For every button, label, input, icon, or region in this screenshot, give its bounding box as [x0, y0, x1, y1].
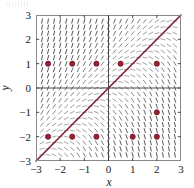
data-point: [154, 110, 159, 115]
y-tick-label: −2: [19, 131, 31, 143]
data-point: [118, 61, 123, 66]
scan-artifact: [6, 2, 28, 7]
x-tick-label: 3: [178, 163, 184, 175]
x-axis-title: x: [105, 176, 112, 188]
data-point: [70, 134, 75, 139]
x-tick-label: 0: [106, 163, 112, 175]
y-tick-label: 1: [26, 58, 32, 70]
data-point: [154, 61, 159, 66]
x-tick-label: −2: [54, 163, 66, 175]
y-tick-label: 3: [26, 9, 32, 21]
data-point: [94, 61, 99, 66]
data-point: [45, 61, 50, 66]
plot-canvas: −3−2−10123−3−2−10123 x y: [0, 0, 194, 188]
x-tick-label: −3: [30, 163, 42, 175]
data-point: [45, 134, 50, 139]
data-point: [94, 134, 99, 139]
y-tick-label: 0: [26, 82, 32, 94]
slope-field-figure: −3−2−10123−3−2−10123 x y: [0, 0, 194, 188]
x-tick-label: 1: [130, 163, 136, 175]
x-tick-label: 2: [154, 163, 160, 175]
data-point: [154, 134, 159, 139]
y-tick-label: −1: [19, 106, 31, 118]
y-axis-title: y: [0, 85, 12, 92]
x-tick-label: −1: [78, 163, 90, 175]
data-point: [70, 61, 75, 66]
data-point: [130, 134, 135, 139]
y-tick-label: 2: [26, 33, 32, 45]
y-tick-label: −3: [19, 155, 31, 167]
